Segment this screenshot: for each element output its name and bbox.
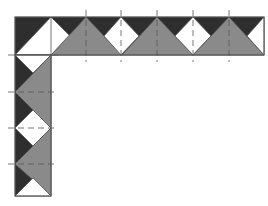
left-column <box>15 55 51 196</box>
quilt-border-diagram <box>0 0 268 206</box>
top-band <box>15 17 264 55</box>
